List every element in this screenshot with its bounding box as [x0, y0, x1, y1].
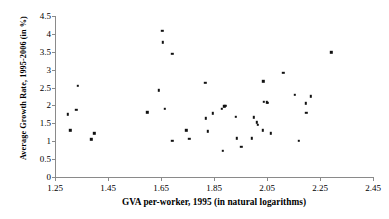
y-tick-mark [52, 88, 55, 89]
data-point [207, 130, 209, 132]
y-tick-mark [52, 105, 55, 106]
x-tick-mark [161, 177, 162, 181]
y-tick-mark [52, 159, 55, 160]
y-tick-mark [52, 141, 55, 142]
y-tick-mark [52, 16, 55, 17]
data-point [298, 139, 300, 141]
data-point [310, 95, 312, 97]
data-point [164, 107, 166, 109]
data-point [171, 139, 173, 141]
x-tick-mark [108, 177, 109, 181]
y-tick-mark [52, 123, 55, 124]
y-tick-mark [52, 52, 55, 53]
data-point [235, 116, 237, 118]
data-point [266, 101, 268, 103]
x-tick-label: 1.25 [47, 184, 63, 193]
x-tick-mark [267, 177, 268, 181]
data-point [188, 138, 190, 140]
data-point [262, 80, 264, 82]
x-tick-label: 1.85 [206, 184, 222, 193]
data-point [257, 124, 259, 126]
data-point [224, 105, 226, 107]
data-point [171, 53, 173, 55]
data-point [253, 116, 255, 118]
data-point [67, 113, 69, 115]
data-point [222, 149, 224, 151]
y-tick-label: 0 [47, 173, 52, 182]
data-point [77, 85, 79, 87]
data-point [282, 71, 284, 73]
data-point [251, 137, 253, 139]
data-point [236, 137, 238, 139]
x-tick-label: 1.45 [100, 184, 116, 193]
data-point [185, 129, 187, 131]
y-tick-label: 1.5 [40, 119, 51, 128]
y-tick-label: 3.5 [40, 47, 51, 56]
y-axis-line [55, 16, 56, 177]
data-point [262, 129, 264, 131]
data-point [157, 89, 159, 91]
data-point [69, 129, 71, 131]
y-tick-label: 1 [47, 137, 52, 146]
x-tick-label: 1.65 [153, 184, 169, 193]
y-tick-label: 3 [47, 65, 52, 74]
data-point [330, 51, 332, 53]
data-point [304, 102, 306, 104]
data-point [205, 117, 207, 119]
x-tick-label: 2.05 [259, 184, 275, 193]
x-tick-mark [214, 177, 215, 181]
x-axis-title: GVA per-worker, 1995 (in natural logarit… [55, 198, 373, 207]
x-tick-label: 2.45 [365, 184, 381, 193]
data-point [204, 82, 206, 84]
data-point [146, 111, 148, 113]
x-tick-mark [320, 177, 321, 181]
y-tick-mark [52, 70, 55, 71]
data-point [90, 138, 92, 140]
data-point [294, 94, 296, 96]
data-point [305, 112, 307, 114]
data-point [93, 132, 95, 134]
data-point [75, 109, 77, 111]
data-point [240, 145, 242, 147]
plot-area: 00.511.522.533.544.5 1.251.451.651.852.0… [55, 16, 373, 177]
data-point [162, 41, 164, 43]
y-tick-label: 4.5 [40, 12, 51, 21]
y-axis-title: Average Growth Rate, 1995-2006 (in %) [20, 0, 28, 176]
x-tick-mark [55, 177, 56, 181]
y-tick-mark [52, 34, 55, 35]
data-point [212, 112, 214, 114]
y-tick-label: 2 [47, 101, 52, 110]
y-tick-label: 4 [47, 29, 52, 38]
x-tick-label: 2.25 [312, 184, 328, 193]
y-tick-label: 0.5 [40, 155, 51, 164]
scatter-chart-figure: Average Growth Rate, 1995-2006 (in %) 00… [0, 0, 389, 219]
data-point [270, 132, 272, 134]
data-point [161, 30, 163, 32]
x-tick-mark [373, 177, 374, 181]
data-point [220, 107, 222, 109]
y-tick-label: 2.5 [40, 83, 51, 92]
